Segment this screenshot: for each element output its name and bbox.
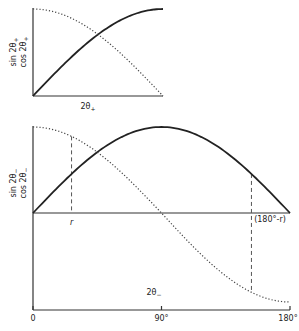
lower-y-label-cos: cos 2θ− (19, 167, 29, 198)
svg-text:cos 2θ+: cos 2θ+ (19, 36, 29, 67)
lower-chart: sin 2θ− cos 2θ− 2θ− r (180°-r) 0 90° 180… (9, 126, 298, 323)
upper-cos-curve (33, 9, 163, 96)
upper-y-label-sin: sin 2θ+ (9, 37, 19, 66)
svg-text:sin 2θ−: sin 2θ− (9, 168, 19, 197)
svg-text:cos 2θ−: cos 2θ− (19, 167, 29, 198)
upper-x-label: 2θ+ (80, 102, 95, 112)
upper-chart: sin 2θ+ cos 2θ+ 2θ+ (9, 8, 163, 112)
svg-text:sin 2θ+: sin 2θ+ (9, 37, 19, 66)
lower-x-label: 2θ− (146, 288, 161, 298)
tick-label-0: 0 (30, 314, 35, 323)
upper-sin-curve (33, 9, 163, 96)
lower-y-label-sin: sin 2θ− (9, 168, 19, 197)
upper-y-label-cos: cos 2θ+ (19, 36, 29, 67)
r-complement-label: (180°-r) (254, 215, 286, 224)
r-label: r (70, 218, 74, 227)
tick-label-90: 90° (154, 314, 168, 323)
figure: sin 2θ+ cos 2θ+ 2θ+ sin 2θ− cos 2θ− 2θ− … (0, 0, 299, 331)
tick-label-180: 180° (278, 314, 297, 323)
